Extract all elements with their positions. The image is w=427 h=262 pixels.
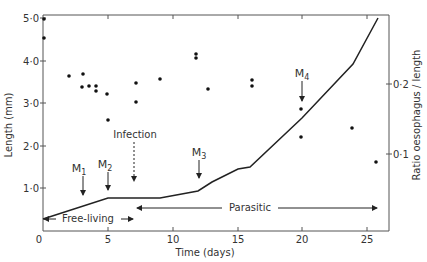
infection-marker: Infection [113,129,157,181]
y2-tick-0.2: 0·2 [393,79,409,90]
moult-m4: M4 [295,67,310,101]
y-tick-3: 3·0 [23,98,39,109]
x-tick-25: 25 [361,234,374,245]
x-tick-0: 0 [36,234,42,245]
x-axis-label: Time (days) [174,247,234,258]
svg-text:M1: M1 [72,162,87,177]
x-tick-15: 15 [232,234,245,245]
svg-text:Infection: Infection [113,129,157,140]
plot-frame [43,15,389,231]
y-axis-label: Length (mm) [3,92,14,157]
y-tick-5: 5·0 [23,13,39,24]
x-tick-10: 10 [167,234,180,245]
moult-m1: M1 [72,162,87,195]
y-tick-2: 2·0 [23,141,39,152]
moult-m3: M3 [192,146,207,178]
svg-text:M4: M4 [295,67,310,82]
y-tick-4: 4·0 [23,56,39,67]
svg-text:M3: M3 [192,146,207,161]
y-tick-1: 1·0 [23,183,39,194]
moult-m2: M2 [98,158,113,190]
svg-text:M2: M2 [98,158,113,173]
chart: 0 5 10 15 20 25 Time (days) 1·0 2·0 3·0 … [0,0,427,262]
x-tick-20: 20 [296,234,309,245]
length-line [43,18,378,219]
parasitic-range: Parasitic [137,202,377,213]
svg-text:Parasitic: Parasitic [229,202,271,213]
svg-text:Free-living: Free-living [62,213,114,224]
y2-tick-0.1: 0·1 [393,149,409,160]
y2-axis-label: Ratio oesophagus / length [411,50,422,181]
x-tick-5: 5 [105,234,111,245]
